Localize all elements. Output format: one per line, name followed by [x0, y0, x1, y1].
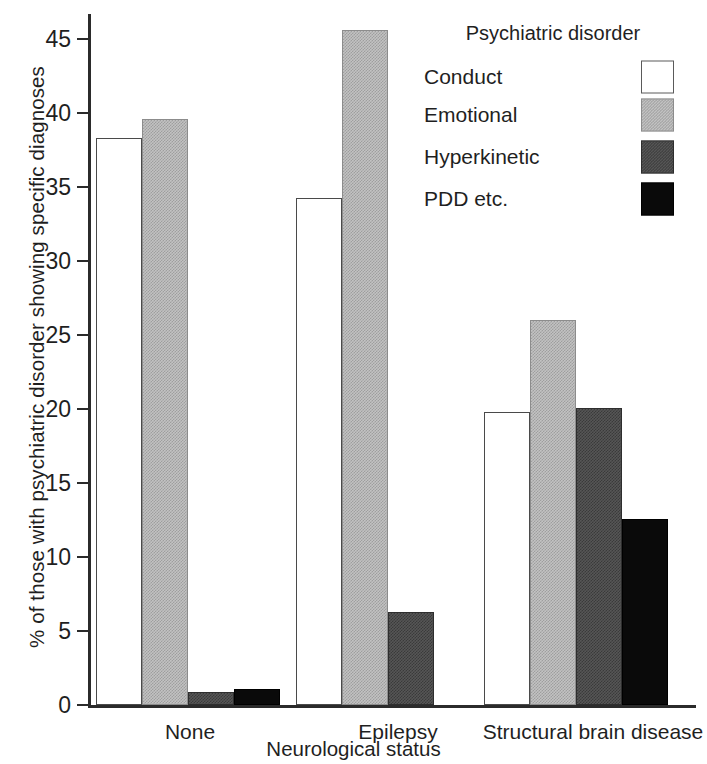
legend-swatch-emotional — [641, 99, 674, 132]
y-axis-tick: 35 — [77, 186, 88, 188]
legend-entry-hyperkinetic: Hyperkinetic — [418, 140, 688, 174]
y-axis-tick: 20 — [77, 408, 88, 410]
y-axis-tick-label: 15 — [45, 470, 71, 497]
x-axis-tick-label: Epilepsy — [358, 720, 437, 744]
y-axis-tick-label: 45 — [45, 26, 71, 53]
legend-entry-conduct: Conduct — [418, 60, 688, 94]
legend-entry-emotional: Emotional — [418, 98, 688, 132]
y-axis-tick-label: 20 — [45, 396, 71, 423]
y-axis-tick: 15 — [77, 482, 88, 484]
legend-entry-pdd-etc-: PDD etc. — [418, 182, 688, 216]
bar-structural-brain-disease-hyperkinetic — [576, 408, 622, 705]
bar-structural-brain-disease-pdd-etc- — [622, 519, 668, 705]
legend-label: PDD etc. — [424, 187, 508, 211]
y-axis-tick: 30 — [77, 260, 88, 262]
y-axis-tick: 0 — [77, 704, 88, 706]
y-axis-tick-label: 10 — [45, 544, 71, 571]
bar-none-hyperkinetic — [188, 692, 234, 705]
bar-epilepsy-hyperkinetic — [388, 612, 434, 705]
y-axis-spine — [88, 14, 91, 707]
legend-swatch-hyperkinetic — [641, 141, 674, 174]
x-axis-tick-label: None — [165, 720, 215, 744]
y-axis-tick: 5 — [77, 630, 88, 632]
legend: Psychiatric disorder ConductEmotionalHyp… — [418, 18, 688, 218]
y-axis-tick: 25 — [77, 334, 88, 336]
x-axis-spine — [88, 705, 696, 708]
bar-epilepsy-emotional — [342, 30, 388, 705]
y-axis-tick-label: 35 — [45, 174, 71, 201]
bar-chart-figure: % of those with psychiatric disorder sho… — [0, 0, 707, 764]
legend-title: Psychiatric disorder — [418, 22, 688, 45]
y-axis-tick-label: 0 — [58, 692, 71, 719]
bar-none-pdd-etc- — [234, 689, 280, 705]
y-axis-tick-label: 40 — [45, 100, 71, 127]
legend-label: Emotional — [424, 103, 517, 127]
bar-none-emotional — [142, 119, 188, 705]
bar-epilepsy-conduct — [296, 198, 342, 705]
x-axis-tick-label: Structural brain disease — [483, 720, 704, 744]
bar-structural-brain-disease-emotional — [530, 320, 576, 705]
bar-structural-brain-disease-conduct — [484, 412, 530, 705]
y-axis-tick: 10 — [77, 556, 88, 558]
y-axis-tick: 45 — [77, 38, 88, 40]
legend-swatch-pdd — [641, 183, 674, 216]
legend-label: Hyperkinetic — [424, 145, 540, 169]
y-axis-tick-label: 30 — [45, 248, 71, 275]
bar-none-conduct — [96, 138, 142, 705]
y-axis-tick: 40 — [77, 112, 88, 114]
y-axis-tick-label: 25 — [45, 322, 71, 349]
legend-swatch-conduct — [641, 61, 674, 94]
y-axis-tick-label: 5 — [58, 618, 71, 645]
legend-label: Conduct — [424, 65, 502, 89]
